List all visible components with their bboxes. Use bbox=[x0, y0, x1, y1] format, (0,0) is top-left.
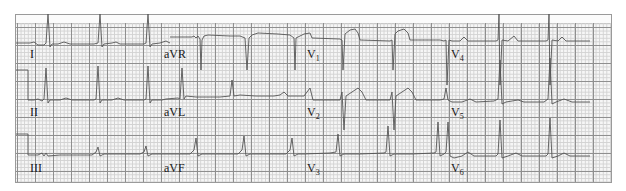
trace-lead-V1 bbox=[304, 29, 440, 70]
trace-lead-aVF bbox=[166, 136, 304, 156]
lead-label-aVR: aVR bbox=[164, 48, 186, 60]
lead-label-V1: V1 bbox=[307, 48, 320, 63]
lead-label-V4: V4 bbox=[451, 48, 464, 63]
lead-label-V2: V2 bbox=[307, 106, 320, 121]
trace-lead-V6 bbox=[444, 118, 590, 158]
lead-label-III: III bbox=[30, 162, 42, 174]
lead-label-I: I bbox=[30, 48, 34, 60]
trace-lead-III bbox=[16, 134, 166, 156]
trace-lead-V3 bbox=[304, 122, 444, 156]
trace-lead-I bbox=[16, 14, 170, 47]
lead-label-V5: V5 bbox=[451, 106, 464, 121]
lead-label-aVL: aVL bbox=[164, 106, 185, 118]
lead-label-V6: V6 bbox=[451, 162, 464, 177]
lead-label-V3: V3 bbox=[307, 162, 320, 177]
trace-lead-aVL bbox=[166, 68, 304, 99]
lead-label-aVF: aVF bbox=[164, 162, 185, 174]
lead-label-II: II bbox=[30, 106, 38, 118]
trace-lead-aVR bbox=[170, 33, 304, 70]
trace-lead-V2 bbox=[304, 88, 440, 130]
trace-lead-II bbox=[16, 66, 166, 103]
trace-lead-V5 bbox=[440, 58, 590, 104]
